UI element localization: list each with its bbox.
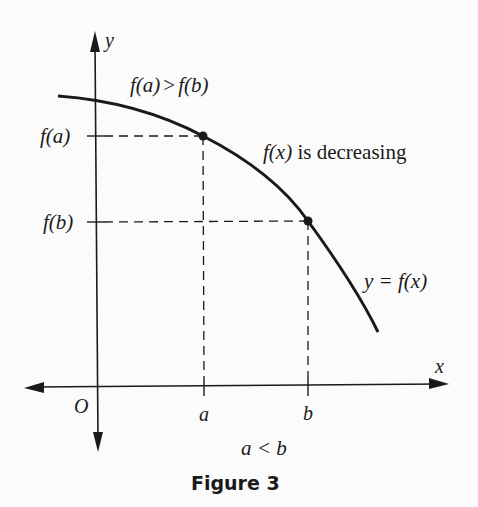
y-axis-down-arrow-icon — [93, 432, 103, 452]
decreasing-annotation: f(x) is decreasing — [263, 140, 407, 164]
x-axis-label: x — [434, 355, 444, 377]
x-tick-label-b: b — [303, 402, 313, 424]
y-axis-up-arrow-icon — [90, 31, 100, 52]
inputs-inequality-annotation: a < b — [241, 436, 287, 460]
curve-label: y = f(x) — [362, 269, 427, 293]
decreasing-fx: f(x) — [263, 140, 292, 164]
decreasing-function-figure: y x O f(a) f(b) a b f(a)>f(b) f(x) is de… — [0, 0, 478, 507]
origin-label: O — [74, 395, 88, 417]
y-axis-label: y — [103, 29, 114, 52]
x-axis — [34, 384, 440, 387]
x-axis-left-arrow-icon — [24, 382, 44, 393]
decreasing-text: is decreasing — [292, 140, 407, 164]
x-axis-right-arrow-icon — [429, 378, 449, 389]
y-tick-label-fb: f(b) — [43, 210, 73, 234]
values-inequality-annotation: f(a)>f(b) — [130, 73, 209, 97]
y-tick-label-fa: f(a) — [40, 124, 70, 148]
axis-ticks — [87, 136, 308, 396]
values-inequality-lhs: f(a) — [130, 73, 160, 97]
dashed-guides — [104, 136, 308, 378]
point-a — [199, 132, 208, 141]
values-inequality-op: > — [163, 73, 175, 97]
x-tick-label-a: a — [199, 403, 209, 425]
function-curve — [58, 96, 378, 332]
point-b — [304, 217, 313, 226]
figure-caption: Figure 3 — [191, 472, 280, 494]
values-inequality-rhs: f(b) — [178, 73, 208, 97]
